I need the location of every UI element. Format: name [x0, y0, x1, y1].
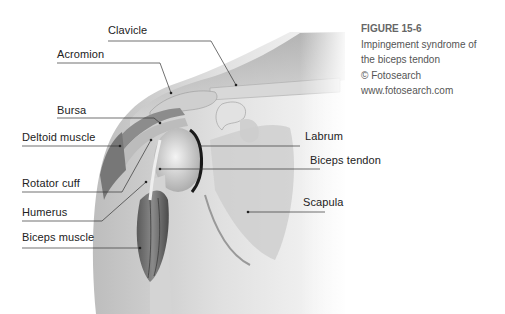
- figure-caption: FIGURE 15-6 Impingement syndrome of the …: [361, 21, 477, 99]
- caption-url: www.fotosearch.com: [361, 83, 477, 99]
- caption-line: the biceps tendon: [361, 52, 477, 68]
- label-labrum: Labrum: [305, 130, 343, 142]
- label-deltoid-muscle: Deltoid muscle: [22, 131, 96, 143]
- label-rotator-cuff: Rotator cuff: [22, 177, 80, 189]
- label-scapula: Scapula: [303, 196, 343, 208]
- caption-credit: © Fotosearch: [361, 68, 477, 84]
- caption-line: Impingement syndrome of: [361, 37, 477, 53]
- figure-number: FIGURE 15-6: [361, 21, 477, 37]
- label-acromion: Acromion: [57, 48, 104, 60]
- label-bursa: Bursa: [57, 104, 86, 116]
- label-biceps-muscle: Biceps muscle: [22, 231, 94, 243]
- label-humerus: Humerus: [22, 206, 67, 218]
- label-clavicle: Clavicle: [108, 24, 147, 36]
- label-biceps-tendon: Biceps tendon: [310, 154, 381, 166]
